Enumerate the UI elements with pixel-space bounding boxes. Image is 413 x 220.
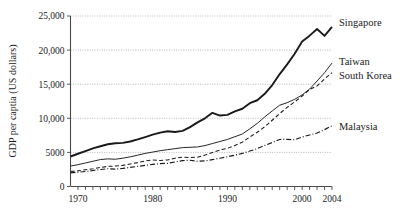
x-tick-label: 1980 bbox=[143, 194, 162, 204]
series-line-singapore bbox=[71, 27, 333, 157]
x-tick-label: 1970 bbox=[68, 194, 87, 204]
x-tick-label: 2004 bbox=[323, 194, 342, 204]
x-tick-label: 1990 bbox=[218, 194, 237, 204]
series-label-taiwan: Taiwan bbox=[339, 56, 371, 67]
series-label-singapore: Singapore bbox=[339, 17, 382, 28]
series-label-south-korea: South Korea bbox=[339, 70, 392, 81]
series-paths-group bbox=[71, 27, 333, 173]
y-tick-label: 25,000 bbox=[38, 11, 64, 21]
gdp-per-capita-line-chart: 0500010,00015,00020,00025,000 1970198019… bbox=[0, 0, 413, 220]
gridlines-group bbox=[71, 16, 333, 152]
y-tick-label: 5000 bbox=[46, 148, 65, 158]
y-tick-label: 0 bbox=[60, 182, 65, 192]
chart-canvas: 0500010,00015,00020,00025,000 1970198019… bbox=[0, 0, 413, 220]
y-tick-label: 10,000 bbox=[38, 114, 64, 124]
series-line-south-korea bbox=[71, 73, 333, 172]
y-tick-label: 20,000 bbox=[38, 46, 64, 56]
y-tick-label: 15,000 bbox=[38, 80, 64, 90]
x-tick-label: 2000 bbox=[293, 194, 312, 204]
x-tick-labels-group: 19701980199020002004 bbox=[68, 194, 341, 204]
series-label-malaysia: Malaysia bbox=[339, 121, 378, 132]
y-tick-labels-group: 0500010,00015,00020,00025,000 bbox=[38, 11, 64, 192]
series-line-taiwan bbox=[71, 63, 333, 166]
y-axis-title: GDP per captia (US dollars) bbox=[7, 45, 19, 158]
